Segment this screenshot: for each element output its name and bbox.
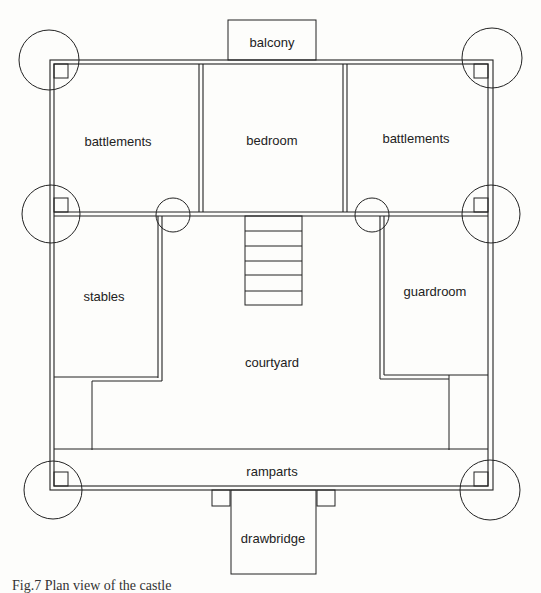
- label-battlements-right: battlements: [382, 131, 449, 146]
- label-stables: stables: [83, 289, 124, 304]
- tower-inner-left: [156, 198, 190, 232]
- label-courtyard: courtyard: [245, 355, 299, 370]
- staircase: [245, 216, 302, 305]
- label-ramparts: ramparts: [246, 464, 297, 479]
- tower-inner-right: [355, 198, 389, 232]
- drawbridge-post-right: [317, 490, 335, 506]
- drawbridge-post-left: [212, 490, 230, 506]
- tower-mid-right: [462, 185, 520, 243]
- tower-mid-left: [22, 185, 80, 243]
- stables-walls: [54, 216, 162, 450]
- tower-top-right: [462, 28, 522, 88]
- label-guardroom: guardroom: [404, 284, 467, 299]
- towers: [19, 28, 522, 520]
- label-balcony: balcony: [250, 35, 295, 50]
- label-battlements-left: battlements: [84, 134, 151, 149]
- label-drawbridge: drawbridge: [241, 531, 305, 546]
- guardroom-walls: [380, 216, 488, 450]
- top-cross-wall: [54, 212, 488, 216]
- label-bedroom: bedroom: [246, 133, 297, 148]
- figure-caption: Fig.7 Plan view of the castle: [12, 578, 171, 593]
